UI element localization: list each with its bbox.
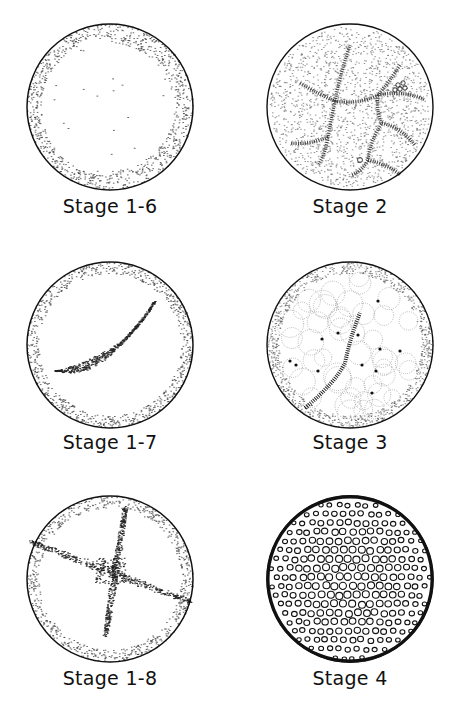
panel-label: Stage 1-6	[10, 195, 210, 217]
stage-1-7-sphere-drawing	[10, 253, 210, 443]
stage-1-6-sphere-drawing	[10, 15, 210, 205]
panel-stage-3: Stage 3	[250, 253, 450, 483]
stage-4-sphere-drawing	[250, 487, 450, 677]
panel-stage-2: Stage 2	[250, 15, 450, 245]
panel-label: Stage 1-7	[10, 431, 210, 453]
panel-stage-1-7: Stage 1-7	[10, 253, 210, 483]
panel-label: Stage 4	[250, 667, 450, 689]
panel-label: Stage 1-8	[10, 667, 210, 689]
panel-stage-1-6: Stage 1-6	[10, 15, 210, 245]
panel-label: Stage 3	[250, 431, 450, 453]
stage-2-sphere-drawing	[250, 15, 450, 205]
panel-label: Stage 2	[250, 195, 450, 217]
panel-stage-4: Stage 4	[250, 487, 450, 713]
stage-1-8-sphere-drawing	[10, 487, 210, 677]
stage-3-sphere-drawing	[250, 253, 450, 443]
panel-stage-1-8: Stage 1-8	[10, 487, 210, 713]
